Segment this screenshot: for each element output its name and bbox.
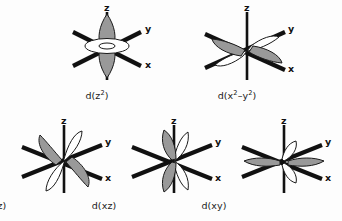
axis-label-x: x — [325, 172, 331, 183]
axis-label-y: y — [288, 23, 295, 34]
axis-label-x: x — [215, 172, 221, 183]
d-x-squared-minus-y-squared-caption: d(x2–y2) — [66, 89, 342, 101]
axis-label-x: x — [145, 59, 151, 70]
d-xy-orbital: z y x — [232, 117, 337, 201]
lobes-group — [85, 14, 129, 78]
d-orbital-diagram: z y x d(z2) z y x — [0, 0, 342, 221]
d-yz-orbital: z y x — [12, 117, 117, 201]
d-z-squared-orbital: z y x — [55, 4, 160, 88]
axis-label-y: y — [145, 23, 152, 34]
axis-label-z: z — [104, 4, 110, 13]
grey-lobe-lower-right — [66, 157, 89, 187]
grey-lobe-upper-left — [39, 135, 62, 165]
axis-label-x: x — [288, 63, 294, 74]
axis-label-z: z — [244, 4, 250, 13]
axes-group — [22, 125, 102, 193]
grey-lobe-left — [244, 158, 280, 166]
axis-label-y: y — [325, 136, 332, 147]
axis-label-z: z — [171, 117, 177, 126]
x-lobe-left — [212, 39, 245, 56]
axis-label-z: z — [61, 117, 67, 126]
d-xy-caption: d(xy) — [43, 200, 342, 211]
axis-label-y: y — [215, 136, 222, 147]
axis-label-x: x — [105, 172, 111, 183]
d-xz-orbital: z y x — [122, 117, 227, 201]
d-x-squared-minus-y-squared-orbital: z y x — [195, 4, 300, 88]
grey-lobe-right — [288, 158, 324, 166]
axis-label-z: z — [281, 117, 287, 126]
axis-label-y: y — [105, 136, 112, 147]
torus-inner-hole — [99, 43, 115, 49]
